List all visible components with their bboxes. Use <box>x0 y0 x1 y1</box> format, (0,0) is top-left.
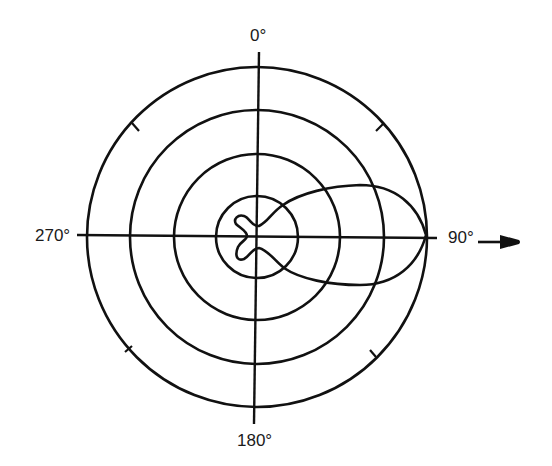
label-0: 0° <box>250 26 266 45</box>
label-270: 270° <box>35 226 70 245</box>
tick-45 <box>376 124 383 131</box>
tick-135 <box>370 350 376 357</box>
direction-arrow-icon <box>478 235 520 249</box>
tick-315 <box>132 123 139 131</box>
polar-grid <box>77 52 437 424</box>
axis-vertical <box>254 52 259 424</box>
polar-diagram: 0° 90° 180° 270° <box>0 0 552 466</box>
label-180: 180° <box>237 431 272 450</box>
label-90: 90° <box>448 228 474 247</box>
